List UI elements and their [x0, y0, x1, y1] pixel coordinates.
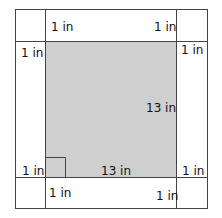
- label-inner-width: 13 in: [101, 164, 131, 178]
- label-bottom-right: 1 in: [156, 189, 178, 203]
- label-left-top: 1 in: [21, 46, 43, 60]
- label-right-bottom: 1 in: [182, 164, 204, 178]
- label-top-left: 1 in: [51, 20, 73, 34]
- label-inner-height: 13 in: [146, 101, 176, 115]
- diagram: 1 in 1 in 1 in 1 in 13 in 1 in 13 in 1 i…: [0, 0, 222, 218]
- label-bottom-left: 1 in: [49, 186, 71, 200]
- label-top-right: 1 in: [154, 20, 176, 34]
- label-left-bottom: 1 in: [22, 164, 44, 178]
- label-right-top: 1 in: [181, 43, 203, 57]
